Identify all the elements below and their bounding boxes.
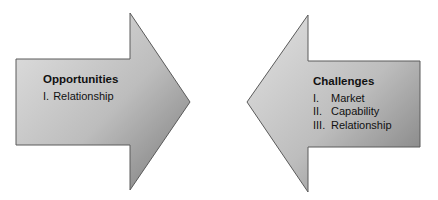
challenge-item: II. Capability [313,105,392,119]
challenges-title: Challenges [313,75,392,89]
item-label: Relationship [53,90,114,104]
item-label: Market [331,92,365,106]
challenge-item: I. Market [313,92,392,106]
opportunities-block: Opportunities I. Relationship [43,73,118,103]
challenge-item: III. Relationship [313,119,392,133]
challenges-block: Challenges I. Market II. Capability III.… [313,75,392,132]
opportunities-title: Opportunities [43,73,118,87]
item-label: Relationship [331,119,392,133]
item-number: II. [313,105,331,119]
item-number: III. [313,119,331,133]
item-label: Capability [331,105,379,119]
opportunity-item: I. Relationship [43,90,118,104]
item-number: I. [313,92,331,106]
item-number: I. [43,90,49,104]
